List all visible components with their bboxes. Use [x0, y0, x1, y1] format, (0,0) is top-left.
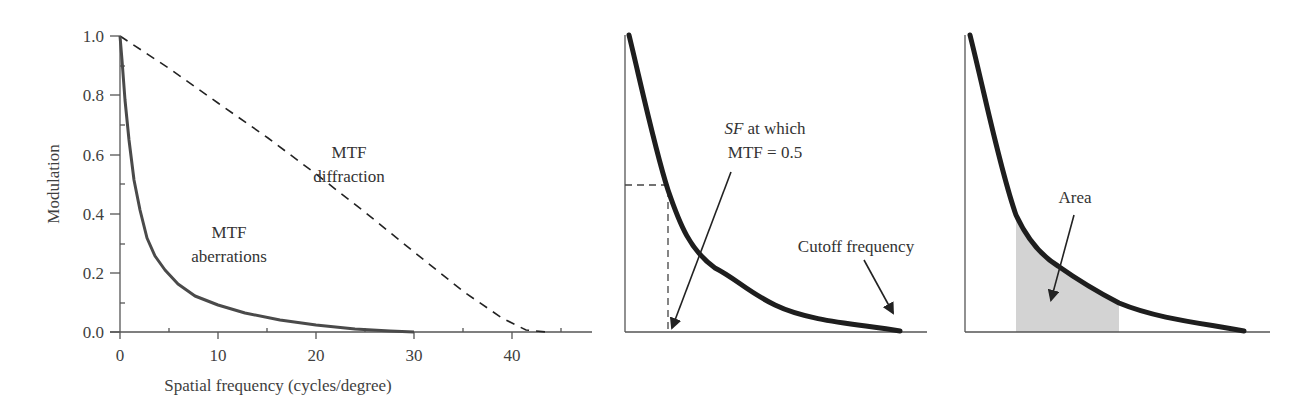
label-sf-rest: at which — [743, 119, 806, 138]
x-ticks — [120, 328, 561, 339]
y-axis-label: Modulation — [44, 144, 63, 224]
label-mtf-aberrations: MTF — [212, 223, 247, 242]
y-tick-label: 0.2 — [83, 264, 104, 283]
y-tick-label: 1.0 — [83, 27, 104, 46]
label-mtf-half: MTF = 0.5 — [728, 143, 802, 162]
panel-sf-at-mtf-half: SF at which MTF = 0.5 Cutoff frequency — [625, 35, 927, 332]
figure-canvas: 1.0 0.8 0.6 0.4 0.2 0.0 0 10 20 30 40 Mo… — [0, 0, 1302, 415]
y-tick-label: 0.4 — [83, 205, 105, 224]
x-tick-label: 10 — [210, 346, 227, 365]
panel-area-under-mtf: Area — [965, 35, 1270, 332]
label-mtf-diffraction: MTF — [332, 143, 367, 162]
mtf-curve — [629, 35, 900, 331]
label-cutoff-frequency: Cutoff frequency — [798, 237, 915, 256]
y-tick-label: 0.6 — [83, 146, 104, 165]
mtf-half-guide — [625, 185, 668, 332]
label-mtf-diffraction: diffraction — [313, 167, 385, 186]
mtf-curve — [970, 35, 1244, 331]
x-tick-label: 30 — [406, 346, 423, 365]
x-tick-label: 40 — [504, 346, 521, 365]
cutoff-arrow — [864, 260, 893, 313]
x-tick-label: 0 — [116, 346, 125, 365]
panel-mtf-comparison: 1.0 0.8 0.6 0.4 0.2 0.0 0 10 20 30 40 Mo… — [44, 27, 592, 395]
label-sf-at-which: SF at which — [724, 119, 806, 138]
sf-arrow — [672, 172, 731, 328]
y-tick-label: 0.0 — [83, 323, 104, 342]
x-axis-label: Spatial frequency (cycles/degree) — [164, 376, 392, 395]
label-mtf-aberrations: aberrations — [191, 247, 267, 266]
label-sf-italic: SF — [724, 119, 744, 138]
label-area: Area — [1058, 188, 1091, 207]
y-tick-label: 0.8 — [83, 86, 104, 105]
x-tick-label: 20 — [308, 346, 325, 365]
